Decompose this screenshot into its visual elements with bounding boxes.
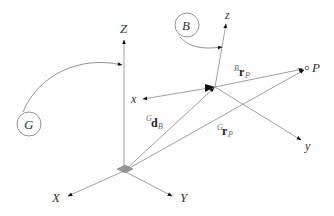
label-B: B <box>182 18 190 33</box>
label-z: z <box>224 8 230 22</box>
label-Z: Z <box>120 21 128 36</box>
label-Y: Y <box>180 190 189 205</box>
svg-text:d: d <box>151 116 158 130</box>
global-x-axis <box>68 171 124 196</box>
label-G-r-P: G r P <box>217 123 233 139</box>
vector-d-B <box>124 88 214 171</box>
body-frame-pointer-arc <box>180 37 222 48</box>
label-y: y <box>304 139 311 153</box>
body-z-axis <box>215 24 226 87</box>
global-frame-pointer-arc <box>23 62 122 112</box>
label-G: G <box>24 117 34 132</box>
global-frame: Z X Y G <box>17 21 189 205</box>
svg-text:P: P <box>227 130 233 139</box>
svg-text:B: B <box>158 122 163 131</box>
label-G-d-B: G d B <box>146 114 163 131</box>
point-P-marker <box>305 66 309 70</box>
global-origin-marker <box>117 165 133 173</box>
label-X: X <box>51 190 61 205</box>
label-B-r-P: B r P <box>234 64 250 80</box>
label-x: x <box>130 92 137 106</box>
diagram-canvas: Z X Y G z x y B P G d B G r P <box>0 0 334 216</box>
svg-text:P: P <box>244 71 250 80</box>
label-P: P <box>311 60 320 75</box>
coordinate-frames-diagram: Z X Y G z x y B P G d B G r P <box>0 0 334 216</box>
vectors: P G d B G r P B r P <box>124 60 320 171</box>
global-y-axis <box>124 171 172 196</box>
